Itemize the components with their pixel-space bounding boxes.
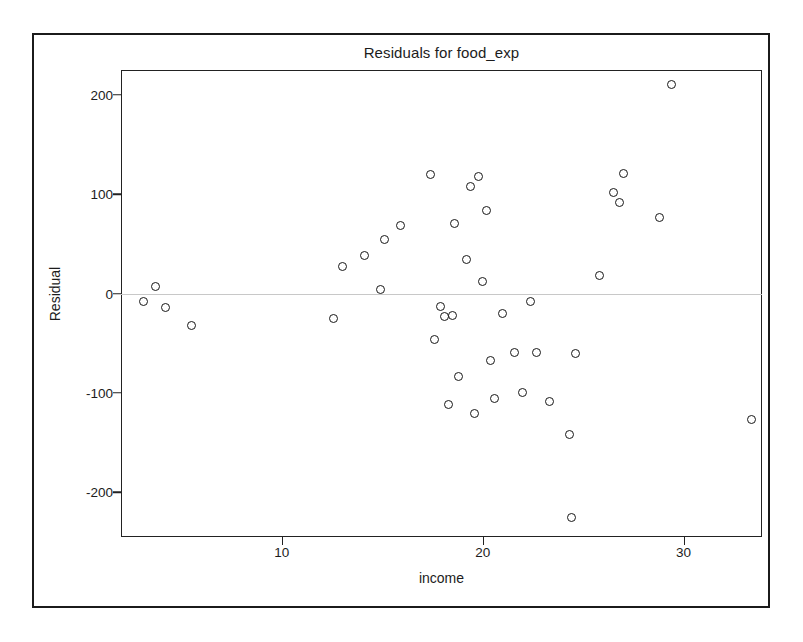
y-tick-label: -200 [61,485,113,500]
x-tick-label: 30 [654,545,714,560]
scatter-point [567,513,576,522]
x-tick-label: 20 [453,545,513,560]
y-tick-label: 200 [61,87,113,102]
scatter-point [360,251,369,260]
y-tick-label: -100 [61,385,113,400]
chart-title: Residuals for food_exp [121,44,762,61]
y-tick-mark [113,392,121,394]
scatter-point [474,172,483,181]
scatter-point [454,372,463,381]
scatter-point [151,282,160,291]
y-tick-mark [113,94,121,96]
scatter-point [571,349,580,358]
scatter-point [545,397,554,406]
scatter-point [565,430,574,439]
scatter-point [482,206,491,215]
zero-reference-line [121,294,762,295]
x-tick-mark [684,537,686,545]
scatter-point [609,188,618,197]
y-tick-mark [113,193,121,195]
scatter-point [595,271,604,280]
scatter-point [655,213,664,222]
y-tick-mark [113,492,121,494]
x-tick-mark [483,537,485,545]
scatter-point [139,297,148,306]
x-tick-mark [282,537,284,545]
y-tick-label: 100 [61,187,113,202]
scatter-point [466,182,475,191]
y-tick-mark [113,293,121,295]
scatter-point [187,321,196,330]
scatter-point [448,311,457,320]
x-tick-label: 10 [252,545,312,560]
scatter-point [161,303,170,312]
scatter-point [430,335,439,344]
x-axis-label: income [121,570,762,586]
scatter-point [510,348,519,357]
scatter-point [376,285,385,294]
y-tick-label: 0 [61,286,113,301]
scatter-point [436,302,445,311]
figure-canvas: Residuals for food_exp Residual 2001000-… [0,0,803,642]
scatter-point [426,170,435,179]
scatter-point [338,262,347,271]
y-axis-ticks: 2001000-100-200 [57,0,113,642]
scatter-point [450,219,459,228]
scatter-point [486,356,495,365]
scatter-point [619,169,628,178]
scatter-point [615,198,624,207]
